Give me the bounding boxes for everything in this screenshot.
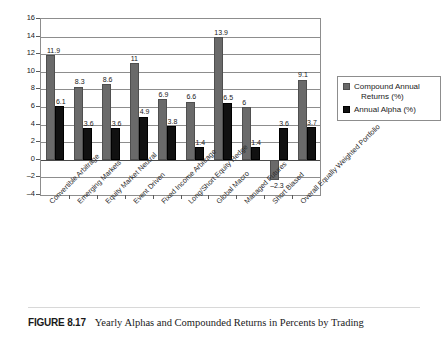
bar-value-label: 3.6 (279, 120, 289, 127)
bar-gray (186, 102, 195, 160)
y-axis-tick-label: 2 (31, 137, 35, 145)
gridline (41, 37, 320, 38)
bar-value-label: 4.9 (140, 108, 150, 115)
bar-value-label: 1.4 (251, 139, 261, 146)
bar-black (167, 126, 176, 159)
bar-black (223, 103, 232, 160)
y-axis-tick-label: 6 (31, 102, 35, 110)
x-axis-tick-mark (236, 195, 237, 199)
chart-legend: Compound Annual Returns (%) Annual Alpha… (337, 76, 441, 121)
figure-caption: FIGURE 8.17Yearly Alphas and Compounded … (28, 316, 440, 329)
bar-gray (214, 37, 223, 159)
x-axis-tick-mark (292, 195, 293, 199)
legend-label-line2: Returns (%) (354, 92, 420, 102)
y-axis-tick-label: –4 (27, 190, 35, 198)
legend-label-line1: Compound Annual (354, 82, 420, 91)
bar-gray (102, 84, 111, 160)
x-axis-tick-mark (97, 195, 98, 199)
figure-number: FIGURE 8.17 (28, 317, 86, 328)
x-axis-tick-mark (153, 195, 154, 199)
legend-item-compound-annual-returns: Compound Annual Returns (%) (343, 82, 435, 101)
y-axis-tick-label: 8 (31, 85, 35, 93)
bar-black (55, 106, 64, 160)
bar-black (251, 147, 260, 159)
legend-label-line1: Annual Alpha (%) (354, 105, 416, 114)
bar-value-label: 13.9 (214, 29, 228, 36)
bar-gray (74, 87, 83, 160)
y-axis-tick-label: 16 (27, 14, 35, 22)
bar-value-label: 6.6 (186, 93, 196, 100)
y-axis-tick-label: 12 (27, 49, 35, 57)
bar-black (307, 127, 316, 160)
bar-value-label: 9.1 (298, 71, 308, 78)
y-axis-tick-label: 4 (31, 120, 35, 128)
bar-value-label: 3.7 (307, 119, 317, 126)
legend-label-annual-alpha: Annual Alpha (%) (354, 105, 416, 115)
legend-swatch-black-icon (343, 106, 350, 113)
bar-gray (46, 55, 55, 160)
bar-value-label: 3.6 (112, 120, 122, 127)
y-axis-tick-label: –2 (27, 173, 35, 181)
x-axis-tick-mark (69, 195, 70, 199)
gridline (41, 72, 320, 73)
x-axis-tick-mark (125, 195, 126, 199)
bar-value-label: 3.6 (84, 120, 94, 127)
bar-black (111, 128, 120, 160)
legend-label-compound-annual-returns: Compound Annual Returns (%) (354, 82, 420, 101)
y-axis-tick-label: 0 (31, 155, 35, 163)
y-axis-tick-label: 10 (27, 67, 35, 75)
bar-gray (158, 99, 167, 160)
x-axis-tick-mark (264, 195, 265, 199)
bar-value-label: 1.4 (195, 139, 205, 146)
bar-gray (130, 63, 139, 160)
figure-container: 1614121086420–2–4 11.96.18.33.68.63.6114… (0, 0, 447, 300)
caption-divider (28, 307, 420, 308)
bar-black (279, 128, 288, 160)
figure-caption-text: Yearly Alphas and Compounded Returns in … (95, 317, 364, 328)
x-axis-tick-mark (208, 195, 209, 199)
bar-black (139, 117, 148, 160)
bar-value-label: 6.9 (159, 91, 169, 98)
bar-value-label: 6 (242, 99, 246, 106)
bar-value-label: 8.3 (75, 78, 85, 85)
bar-value-label: 8.6 (103, 76, 113, 83)
bar-gray (298, 80, 307, 160)
bar-value-label: 3.8 (168, 118, 178, 125)
bar-value-label: 11.9 (47, 47, 60, 54)
bar-value-label: 6.5 (223, 94, 233, 101)
bar-value-label: 11 (131, 55, 138, 62)
y-axis-tick-label: 14 (27, 32, 35, 40)
y-axis: 1614121086420–2–4 (0, 18, 40, 196)
gridline (41, 54, 320, 55)
legend-swatch-gray-icon (343, 83, 350, 90)
bar-value-label: 6.1 (56, 98, 66, 105)
x-axis-tick-mark (181, 195, 182, 199)
legend-item-annual-alpha: Annual Alpha (%) (343, 105, 435, 115)
